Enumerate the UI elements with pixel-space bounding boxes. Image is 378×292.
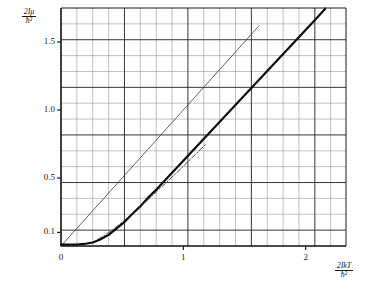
series-layer [61,9,325,246]
grid-major [61,8,346,246]
series-classical-asymptote [61,26,259,246]
series-approximation-curve [98,145,206,240]
figure-container: 2Iμ ħ² 2IkT ħ² 0.10.51.01.5 012 [0,0,378,292]
plot-svg [0,0,378,292]
grid-minor [61,8,346,246]
series-exact-quantum-curve [61,9,325,245]
axes-frame [57,8,346,250]
